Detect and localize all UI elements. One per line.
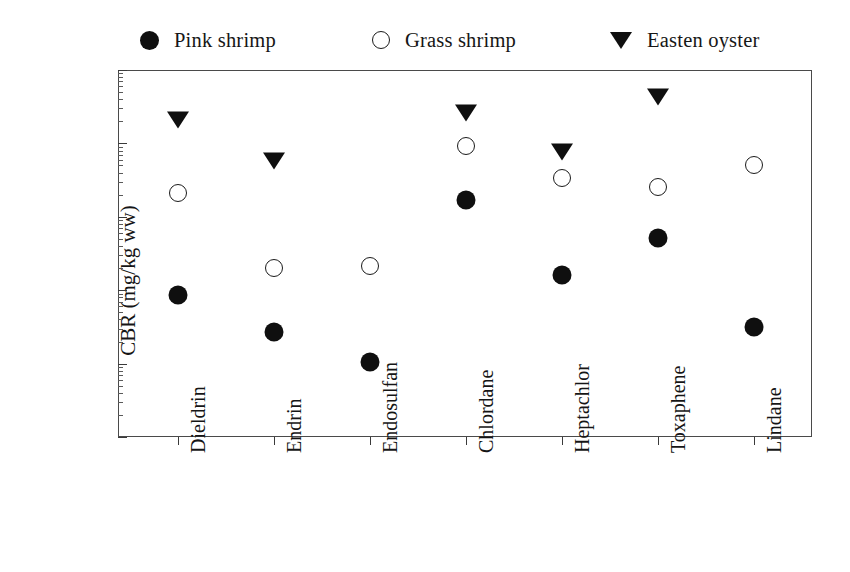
open-circle-icon [265,259,283,277]
data-point [361,257,379,279]
data-point [457,137,475,159]
legend-item-pink-shrimp: Pink shrimp [140,29,276,52]
x-tick [754,437,755,445]
y-tick-minor [118,151,123,152]
y-tick-minor [118,393,123,394]
x-tick [466,437,467,445]
open-circle-icon [372,31,390,49]
y-tick-minor [118,329,123,330]
y-tick-minor [118,380,123,381]
filled-triangle-down-icon [647,88,669,105]
y-tick-minor [118,371,123,372]
y-tick-minor [118,228,123,229]
y-tick-minor [118,77,123,78]
x-tick [274,437,275,445]
data-point [455,105,477,126]
y-tick-minor [118,173,123,174]
filled-triangle-down-icon [263,153,285,170]
filled-triangle-down-icon [455,105,477,122]
y-tick-minor [118,182,123,183]
x-tick-label-chlordane: Chlordane [475,370,498,453]
y-tick-major [118,364,127,365]
y-tick-major [118,290,127,291]
open-circle-icon [649,178,667,196]
open-circle-icon [169,184,187,202]
y-tick-minor [118,415,123,416]
filled-triangle-down-icon [167,112,189,129]
x-tick-label-lindane: Lindane [763,387,786,453]
y-tick-minor [118,319,123,320]
filled-circle-icon [168,286,187,305]
data-point [168,286,187,309]
chart-figure: Pink shrimp Grass shrimp Easten oyster C… [0,0,850,572]
y-tick-minor [118,155,123,156]
legend-label-pink-shrimp: Pink shrimp [174,29,276,52]
y-tick-minor [118,108,123,109]
y-tick-minor [118,294,123,295]
filled-circle-icon [264,323,283,342]
data-point [553,169,571,191]
y-tick-minor [118,402,123,403]
y-tick-minor [118,233,123,234]
y-tick-minor [118,297,123,298]
y-tick-minor [118,306,123,307]
chart-legend: Pink shrimp Grass shrimp Easten oyster [118,18,812,62]
y-tick-minor [118,121,123,122]
data-point [745,317,764,340]
filled-circle-icon [745,317,764,336]
y-tick-minor [118,375,123,376]
open-circle-icon [553,169,571,187]
x-tick [658,437,659,445]
y-axis-label: CBR (mg/kg ww) [116,66,141,496]
y-tick-minor [118,92,123,93]
y-tick-minor [118,312,123,313]
data-point [649,229,668,252]
data-point [551,143,573,164]
legend-label-grass-shrimp: Grass shrimp [405,29,516,52]
data-point [264,323,283,346]
y-tick-major [118,70,127,71]
x-tick [178,437,179,445]
data-point [649,178,667,200]
y-tick-major [118,217,127,218]
x-tick [562,437,563,445]
open-circle-icon [745,156,763,174]
y-tick-minor [118,86,123,87]
y-tick-major [118,437,127,438]
filled-triangle-down-icon [610,32,632,49]
filled-circle-icon [553,266,572,285]
open-circle-icon [361,257,379,275]
legend-item-grass-shrimp: Grass shrimp [372,29,516,52]
data-point [263,153,285,174]
x-tick-label-endosulfan: Endosulfan [379,362,402,453]
legend-label-easten-oyster: Easten oyster [647,29,759,52]
data-point [360,352,379,375]
data-point [553,266,572,289]
y-tick-minor [118,224,123,225]
filled-triangle-down-icon [551,143,573,160]
x-tick-label-dieldrin: Dieldrin [187,386,210,453]
y-tick-minor [118,239,123,240]
y-tick-minor [118,99,123,100]
filled-circle-icon [456,190,475,209]
y-tick-minor [118,342,123,343]
plot-area: CBR (mg/kg ww) 1001010.10.010.001 Dieldr… [118,70,812,437]
x-tick-label-endrin: Endrin [283,399,306,453]
data-point [456,190,475,213]
y-tick-minor [118,246,123,247]
y-tick-major [118,143,127,144]
data-point [167,112,189,133]
data-point [265,259,283,281]
data-point [169,184,187,206]
x-tick [370,437,371,445]
y-tick-minor [118,268,123,269]
y-tick-minor [118,302,123,303]
filled-circle-icon [140,31,159,50]
filled-circle-icon [649,229,668,248]
data-point [745,156,763,178]
y-tick-minor [118,220,123,221]
y-tick-minor [118,195,123,196]
y-tick-minor [118,81,123,82]
y-tick-minor [118,386,123,387]
legend-item-easten-oyster: Easten oyster [610,29,759,52]
